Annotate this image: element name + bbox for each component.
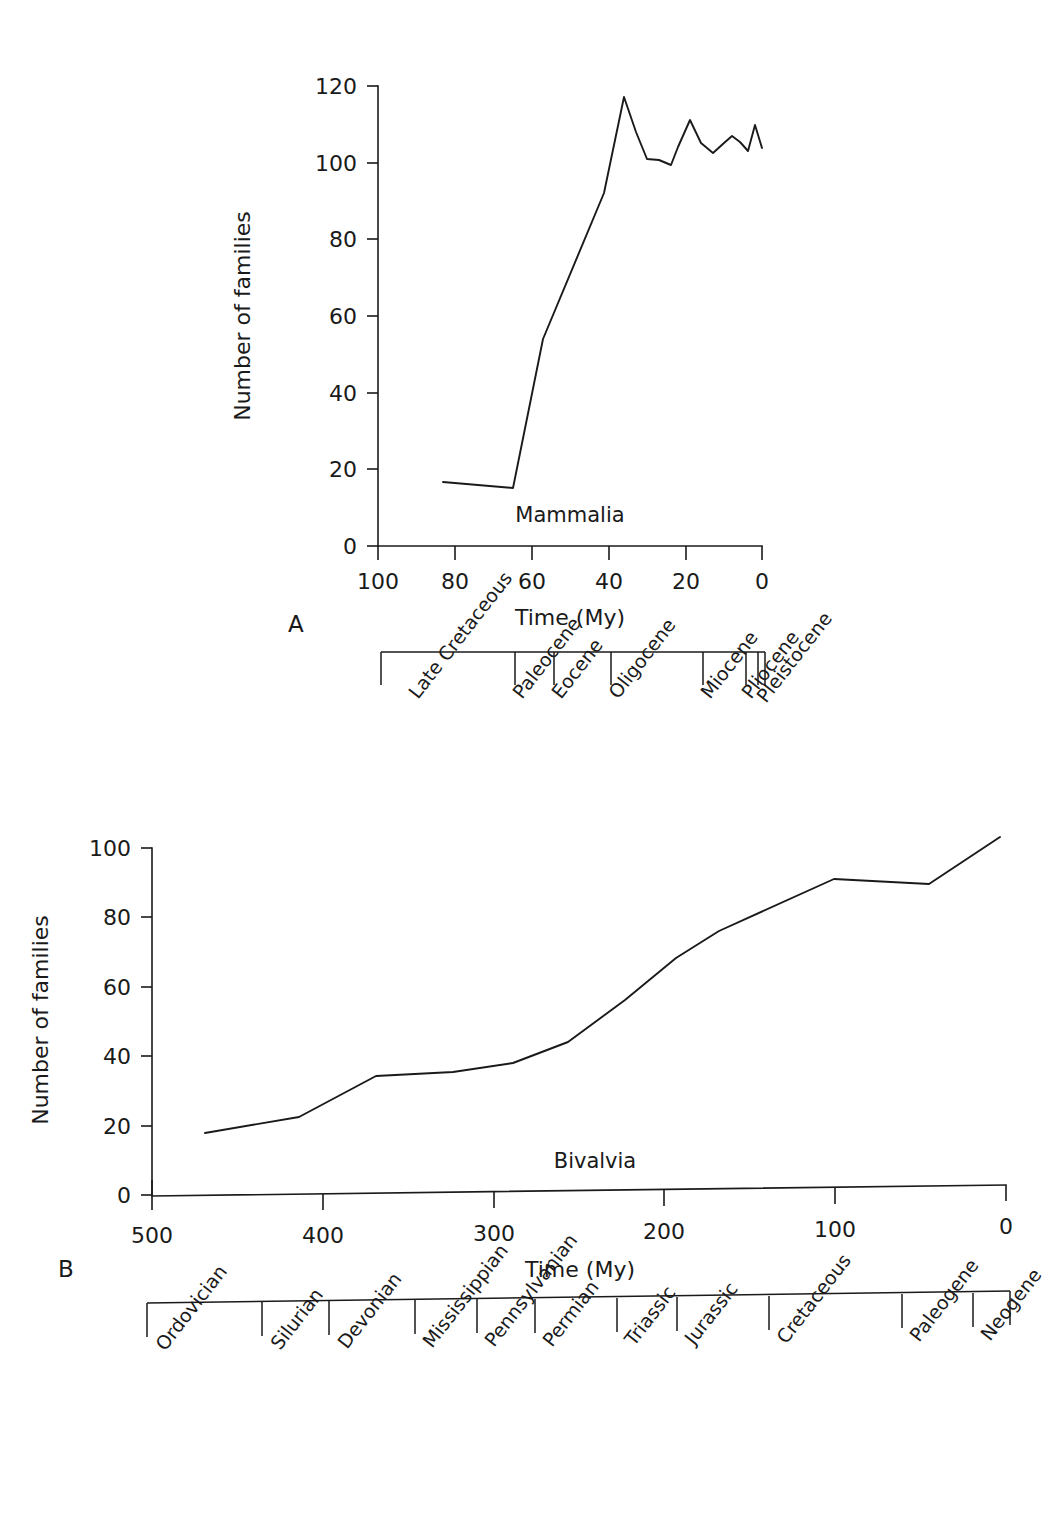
panel-a-xtick-80: 80: [441, 569, 469, 594]
panel-b-period-devonian: Devonian: [333, 1268, 406, 1353]
panel-b-period-paleogene: Paleogene: [905, 1254, 983, 1345]
scientific-figure: 120 100 80 60 40 20 0 100 80 60 40 20 0 …: [0, 0, 1064, 1519]
panel-b-x-axis: [152, 1185, 1006, 1196]
panel-b-period-jurassic: Jurassic: [679, 1278, 742, 1350]
panel-a-ytick-100: 100: [315, 151, 357, 176]
panel-a-xtick-0: 0: [755, 569, 769, 594]
panel-b-period-silurian: Silurian: [266, 1284, 327, 1354]
panel-b-xtick-500: 500: [131, 1223, 173, 1248]
panel-a-x-ticks: [378, 546, 762, 560]
panel-b-series-label: Bivalvia: [554, 1149, 637, 1173]
panel-b-xtick-200: 200: [643, 1219, 685, 1244]
panel-a-mammalia: 120 100 80 60 40 20 0 100 80 60 40 20 0 …: [230, 74, 769, 630]
panel-b-ytick-80: 80: [103, 905, 131, 930]
panel-a-xtick-100: 100: [357, 569, 399, 594]
panel-b-ytick-100: 100: [89, 836, 131, 861]
panel-b-ytick-60: 60: [103, 975, 131, 1000]
panel-a-xtick-60: 60: [518, 569, 546, 594]
panel-b-xtick-0: 0: [999, 1214, 1013, 1239]
panel-b-xtick-400: 400: [302, 1223, 344, 1248]
panel-a-ytick-120: 120: [315, 74, 357, 99]
panel-b-timescale: Ordovician Silurian Devonian Mississippi…: [147, 1229, 1045, 1354]
panel-b-y-ticks: [141, 848, 152, 1195]
panel-a-ytick-20: 20: [329, 457, 357, 482]
panel-b-period-cretaceous: Cretaceous: [772, 1249, 855, 1347]
panel-a-ytick-80: 80: [329, 227, 357, 252]
panel-a-data-line: [443, 97, 762, 488]
panel-a-letter: A: [288, 611, 304, 637]
panel-a-xtick-20: 20: [672, 569, 700, 594]
panel-b-y-axis-title: Number of families: [28, 915, 53, 1125]
panel-b-letter: B: [58, 1256, 74, 1282]
panel-b-period-permian: Permian: [538, 1276, 603, 1351]
panel-b-xtick-100: 100: [814, 1217, 856, 1242]
panel-a-xtick-40: 40: [595, 569, 623, 594]
panel-a-ytick-40: 40: [329, 381, 357, 406]
panel-b-ytick-40: 40: [103, 1044, 131, 1069]
panel-b-data-line: [205, 837, 1000, 1133]
panel-b-bivalvia: 100 80 60 40 20 0 500 400 300 200 100 0 …: [28, 836, 1013, 1282]
panel-a-ytick-0: 0: [343, 534, 357, 559]
panel-a-ytick-60: 60: [329, 304, 357, 329]
panel-a-series-label: Mammalia: [515, 503, 624, 527]
panel-a-y-axis-title: Number of families: [230, 211, 255, 421]
panel-b-period-ordovician: Ordovician: [151, 1260, 231, 1354]
panel-a-y-ticks: [367, 86, 378, 546]
panel-b-period-neogene: Neogene: [976, 1264, 1046, 1345]
panel-b-ytick-20: 20: [103, 1114, 131, 1139]
panel-b-period-triassic: Triassic: [619, 1281, 679, 1350]
panel-b-ytick-0: 0: [117, 1183, 131, 1208]
